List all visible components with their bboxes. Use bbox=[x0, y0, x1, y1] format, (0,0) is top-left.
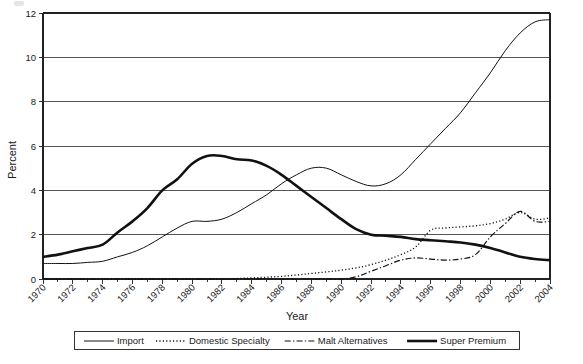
series-line-domestic-specialty bbox=[43, 213, 550, 280]
x-tick-label: 1996 bbox=[413, 282, 436, 305]
x-tick-label: 1998 bbox=[443, 282, 466, 305]
y-tick-label: 2 bbox=[31, 229, 36, 240]
x-tick-label: 1980 bbox=[174, 282, 197, 305]
x-tick-label: 1988 bbox=[294, 282, 317, 305]
y-tick-label: 12 bbox=[25, 8, 36, 19]
y-tick-label: 4 bbox=[31, 185, 36, 196]
legend-label-super-premium: Super Premium bbox=[440, 335, 506, 346]
chart-canvas: 024681012 197019721974197619781980198219… bbox=[0, 0, 583, 364]
x-tick-label: 1994 bbox=[383, 282, 406, 305]
chart-legend: ImportDomestic SpecialtyMalt Alternative… bbox=[75, 331, 519, 349]
y-tick-label: 10 bbox=[25, 52, 36, 63]
x-tick-label: 1982 bbox=[204, 282, 227, 305]
x-tick-label: 1984 bbox=[234, 282, 257, 305]
y-axis-ticks: 024681012 bbox=[25, 8, 43, 285]
x-tick-label: 1974 bbox=[85, 282, 108, 305]
x-tick-label: 1972 bbox=[55, 282, 78, 305]
legend-label-domestic-specialty: Domestic Specialty bbox=[189, 335, 270, 346]
x-axis-label: Year bbox=[286, 310, 309, 322]
data-series bbox=[43, 20, 550, 280]
x-tick-label: 1992 bbox=[353, 282, 376, 305]
x-tick-label: 1978 bbox=[144, 282, 167, 305]
y-tick-label: 6 bbox=[31, 141, 36, 152]
x-tick-label: 1970 bbox=[25, 282, 48, 305]
gridlines bbox=[43, 13, 550, 235]
x-tick-label: 2004 bbox=[532, 282, 555, 305]
series-line-super-premium bbox=[43, 155, 550, 260]
x-tick-label: 1986 bbox=[264, 282, 287, 305]
series-line-import bbox=[43, 20, 550, 264]
y-axis-label: Percent bbox=[6, 141, 18, 179]
x-tick-label: 1976 bbox=[115, 282, 138, 305]
line-chart: 024681012 197019721974197619781980198219… bbox=[0, 0, 583, 364]
x-tick-label: 1990 bbox=[323, 282, 346, 305]
x-tick-label: 2002 bbox=[502, 282, 525, 305]
x-tick-label: 2000 bbox=[473, 282, 496, 305]
scan-artifact bbox=[14, 1, 24, 6]
legend-label-malt-alternatives: Malt Alternatives bbox=[318, 335, 388, 346]
x-axis-ticks: 1970197219741976197819801982198419861988… bbox=[25, 279, 555, 304]
y-tick-label: 0 bbox=[31, 274, 36, 285]
y-tick-label: 8 bbox=[31, 96, 36, 107]
legend-label-import: Import bbox=[117, 335, 144, 346]
